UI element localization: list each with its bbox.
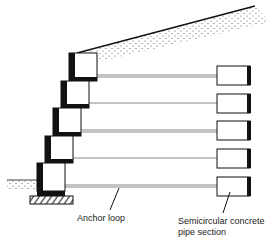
pipe-section-4 (217, 149, 251, 168)
anchor-loop-label: Anchor loop (77, 213, 125, 224)
pipe-section-2 (217, 94, 251, 113)
anchor-loop-leader (110, 188, 119, 210)
retaining-wall-diagram (0, 0, 274, 242)
wall-block-5 (37, 163, 65, 196)
backfill-slope (77, 6, 270, 62)
wall-block-1 (69, 53, 97, 81)
wall-block-4 (45, 136, 73, 163)
pipe-section-3 (217, 121, 251, 140)
pipe-section-label-line2: pipe section (178, 227, 226, 238)
pipe-sections (217, 66, 251, 196)
wall-blocks (37, 53, 97, 196)
pipe-section-label-line1: Semicircular concrete (178, 216, 265, 227)
ground-fill (7, 180, 37, 190)
wall-block-3 (53, 108, 81, 136)
pipe-section-5 (217, 177, 251, 196)
pipe-section-1 (217, 66, 251, 85)
wall-block-2 (61, 81, 89, 108)
footing (30, 196, 73, 204)
